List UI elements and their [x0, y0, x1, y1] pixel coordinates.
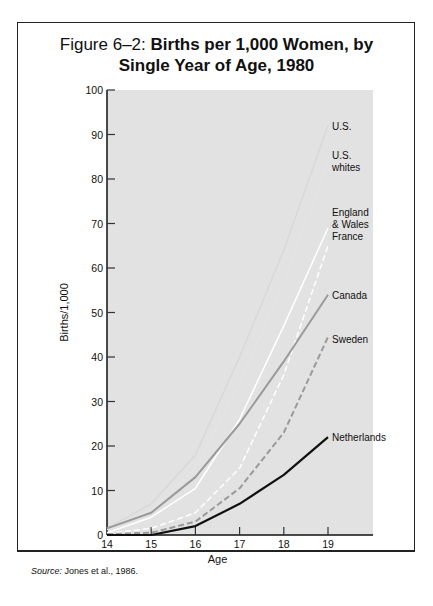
source-label: Source:: [31, 566, 62, 576]
series-label: Netherlands: [332, 432, 386, 443]
y-tick-label: 20: [91, 440, 103, 452]
y-tick-label: 10: [91, 485, 103, 497]
y-tick-label: 80: [91, 173, 103, 185]
y-tick-label: 50: [91, 307, 103, 319]
source-note: Source: Jones et al., 1986.: [31, 566, 138, 576]
series-label: Canada: [332, 290, 367, 301]
y-tick-label: 70: [91, 218, 103, 230]
x-tick-label: 15: [145, 538, 157, 550]
series-label: U.S.: [332, 121, 351, 132]
line-chart: 0102030405060708090100141516171819AgeBir…: [0, 0, 433, 606]
y-tick-label: 90: [91, 129, 103, 141]
y-tick-label: 30: [91, 396, 103, 408]
x-tick-label: 18: [278, 538, 290, 550]
x-tick-label: 19: [322, 538, 334, 550]
x-tick-label: 14: [101, 538, 113, 550]
y-tick-label: 100: [85, 84, 103, 96]
y-tick-label: 60: [91, 262, 103, 274]
y-axis-label: Births/1,000: [58, 283, 70, 342]
x-axis-label: Age: [208, 553, 228, 565]
x-tick-label: 16: [190, 538, 202, 550]
series-label: Sweden: [332, 334, 368, 345]
x-tick-label: 17: [234, 538, 246, 550]
y-tick-label: 40: [91, 351, 103, 363]
source-text: Jones et al., 1986.: [62, 566, 138, 576]
